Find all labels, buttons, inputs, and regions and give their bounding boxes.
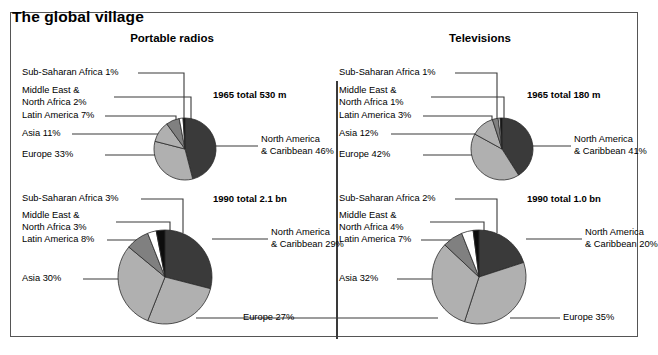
label-latin-america-televisions-1990: Latin America 7% [339,234,411,246]
pie-televisions-1965 [470,117,534,181]
label-europe-radios-1990: Europe 27% [243,312,294,324]
total-label-radios-1990: 1990 total 2.1 bn [213,193,287,204]
total-label-televisions-1965: 1965 total 180 m [527,89,600,100]
label-europe-televisions-1990: Europe 35% [563,312,614,324]
mena-line2: North Africa 3% [22,222,87,232]
label-middle-east-north-africa-televisions-1990: Middle East & North Africa 4% [339,210,404,233]
label-asia-radios-1990: Asia 30% [22,273,61,285]
label-latin-america-radios-1990: Latin America 8% [22,234,94,246]
figure-frame [10,12,638,337]
pie-radios-1965 [153,117,217,181]
na-line1: North America [574,134,633,144]
na-line2: & Caribbean 41% [574,146,647,156]
panel-title-portable-radios: Portable radios [92,32,252,44]
label-europe-radios-1965: Europe 33% [22,149,73,161]
label-sub-saharan-africa-radios-1990: Sub-Saharan Africa 3% [22,193,119,205]
label-middle-east-north-africa-televisions-1965: Middle East & North Africa 1% [339,85,404,108]
na-line1: North America [271,227,330,237]
na-line2: & Caribbean 46% [261,146,334,156]
na-line2: & Caribbean 29% [271,239,344,249]
label-asia-radios-1965: Asia 11% [22,128,61,140]
label-latin-america-televisions-1965: Latin America 3% [339,110,411,122]
total-label-radios-1965: 1965 total 530 m [213,89,286,100]
panel-divider [336,81,338,339]
label-asia-televisions-1990: Asia 32% [339,273,378,285]
mena-line2: North Africa 4% [339,222,404,232]
page-title: The global village [12,8,144,26]
pie-televisions-1990 [431,229,527,325]
label-north-america-radios-1990: North America & Caribbean 29% [271,227,344,250]
pie-radios-1990 [117,229,213,325]
label-asia-televisions-1965: Asia 12% [339,128,378,140]
mena-line1: Middle East & [22,210,79,220]
panel-title-televisions: Televisions [400,32,560,44]
label-north-america-televisions-1965: North America & Caribbean 41% [574,134,647,157]
mena-line2: North Africa 2% [22,97,87,107]
mena-line1: Middle East & [22,85,79,95]
label-sub-saharan-africa-televisions-1990: Sub-Saharan Africa 2% [339,193,436,205]
na-line1: North America [261,134,320,144]
label-north-america-radios-1965: North America & Caribbean 46% [261,134,334,157]
mena-line2: North Africa 1% [339,97,404,107]
label-middle-east-north-africa-radios-1990: Middle East & North Africa 3% [22,210,87,233]
na-line1: North America [585,227,644,237]
label-sub-saharan-africa-televisions-1965: Sub-Saharan Africa 1% [339,67,436,79]
total-label-televisions-1990: 1990 total 1.0 bn [527,193,601,204]
mena-line1: Middle East & [339,210,396,220]
label-sub-saharan-africa-radios-1965: Sub-Saharan Africa 1% [22,67,119,79]
label-middle-east-north-africa-radios-1965: Middle East & North Africa 2% [22,85,87,108]
label-latin-america-radios-1965: Latin America 7% [22,110,94,122]
mena-line1: Middle East & [339,85,396,95]
na-line2: & Caribbean 20% [585,239,658,249]
label-north-america-televisions-1990: North America & Caribbean 20% [585,227,658,250]
label-europe-televisions-1965: Europe 42% [339,149,390,161]
